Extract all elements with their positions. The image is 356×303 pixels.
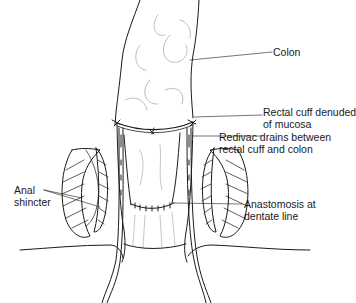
- anal-sphincter-right: [201, 148, 248, 237]
- label-redivac-1: Redivac drains between: [219, 131, 331, 143]
- label-anal-2: shincter: [14, 196, 51, 208]
- perineum: [20, 245, 123, 258]
- label-colon: Colon: [273, 46, 300, 58]
- label-anal-1: Anal: [14, 184, 35, 196]
- suture-ring: [117, 122, 193, 130]
- label-rectal-cuff-1: Rectal cuff denuded: [263, 106, 356, 118]
- label-anastomosis-1: Anastomosis at: [244, 198, 316, 210]
- label-redivac-2: rectal cuff and colon: [219, 143, 313, 155]
- label-anastomosis-2: dentate line: [244, 210, 298, 222]
- colon-drawing: [115, 0, 199, 125]
- anal-sphincter-left: [62, 148, 109, 237]
- redivac-drain-right: [187, 128, 211, 303]
- label-rectal-cuff-2: of mucosa: [263, 118, 311, 130]
